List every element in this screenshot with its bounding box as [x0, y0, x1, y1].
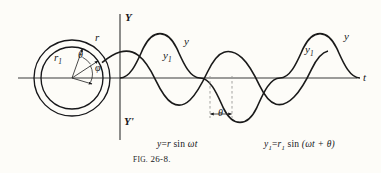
radius-r1-label: r1 [54, 52, 62, 66]
radius-r1-subscript: 1 [58, 57, 62, 66]
t-axis-label: t [363, 72, 366, 83]
figure-caption: FIG. 26-8. [133, 154, 171, 164]
phi-angle-label: φ [95, 63, 101, 73]
equation-y1: y1=r1 sin (ωt + θ) [264, 139, 335, 151]
y-negative-axis-label: Y' [124, 116, 134, 127]
equation-y-argument: ωt [188, 139, 198, 149]
curve-label-y1-first-subscript: 1 [168, 55, 172, 64]
reference-vector [72, 78, 92, 84]
radius-r-label: r [95, 32, 99, 43]
figure-caption-number: 26-8. [151, 154, 171, 164]
phi-arc [90, 66, 92, 83]
theta-angle-label: θ [78, 50, 83, 60]
curve-label-y-first: y [184, 36, 189, 47]
equation-y: y=r sin ωt [157, 139, 197, 149]
phase-difference-theta-label: θ [218, 108, 223, 118]
equation-y-amplitude: r [167, 139, 171, 149]
equation-y1-amplitude-subscript: 1 [281, 144, 285, 151]
y-axis-label: Y [125, 12, 132, 23]
curve-label-y1-first: y1 [163, 50, 172, 64]
equation-y1-function: sin [288, 139, 300, 149]
curve-label-y-second: y [344, 31, 349, 42]
curve-label-y1-second-subscript: 1 [310, 49, 314, 58]
figure-caption-prefix: FIG. [133, 155, 148, 164]
figure-26-8: Y Y' t r r1 θ φ y y1 y1 y θ y=r sin ωt y… [0, 0, 381, 173]
equation-y-function: sin [173, 139, 185, 149]
equation-y1-argument: (ωt + θ) [302, 139, 335, 149]
theta-arc [82, 57, 90, 64]
curve-label-y1-second: y1 [305, 44, 314, 58]
